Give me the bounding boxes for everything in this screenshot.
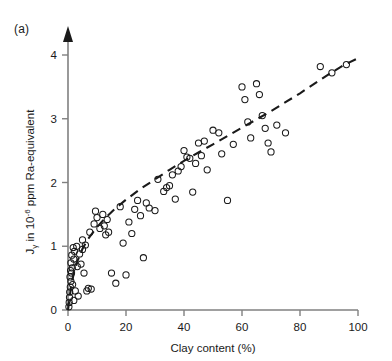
x-axis-title: Clay content (%) bbox=[170, 342, 255, 354]
y-axis-arrow-icon bbox=[63, 26, 73, 42]
data-point-marker bbox=[253, 81, 259, 87]
data-point-marker bbox=[198, 153, 204, 159]
data-point-marker bbox=[137, 213, 143, 219]
data-point-marker bbox=[169, 172, 175, 178]
data-point-marker bbox=[204, 167, 210, 173]
data-point-marker bbox=[108, 270, 114, 276]
data-point-marker bbox=[94, 215, 100, 221]
data-point-marker bbox=[274, 122, 280, 128]
data-point-marker bbox=[123, 272, 129, 278]
data-point-marker bbox=[126, 219, 132, 225]
x-tick-label: 20 bbox=[120, 321, 133, 333]
data-point-marker bbox=[140, 255, 146, 261]
data-point-marker bbox=[100, 211, 106, 217]
data-point-marker bbox=[104, 216, 110, 222]
data-point-marker bbox=[152, 208, 158, 214]
data-point-marker bbox=[146, 205, 152, 211]
x-tick-label: 60 bbox=[236, 321, 249, 333]
axis-labels-group: 02040608010001234Clay content (%)Jγ in 1… bbox=[23, 49, 368, 354]
data-point-marker bbox=[91, 221, 97, 227]
data-point-marker bbox=[113, 280, 119, 286]
data-point-marker bbox=[268, 149, 274, 155]
data-point-marker bbox=[329, 70, 335, 76]
x-tick-label: 100 bbox=[348, 321, 367, 333]
x-tick-label: 80 bbox=[294, 321, 307, 333]
data-point-marker bbox=[120, 240, 126, 246]
data-point-marker bbox=[256, 91, 262, 97]
y-tick-label: 0 bbox=[51, 304, 57, 316]
y-axis-title: Jγ in 10-6 ppm Ra-equivalent bbox=[23, 109, 39, 255]
data-point-marker bbox=[317, 63, 323, 69]
data-point-marker bbox=[172, 196, 178, 202]
data-point-marker bbox=[190, 189, 196, 195]
data-point-marker bbox=[201, 138, 207, 144]
trend-curve bbox=[68, 58, 358, 310]
data-point-marker bbox=[239, 84, 245, 90]
data-point-marker bbox=[282, 130, 288, 136]
y-tick-label: 2 bbox=[51, 177, 57, 189]
data-point-marker bbox=[92, 208, 98, 214]
scatter-plot: 02040608010001234Clay content (%)Jγ in 1… bbox=[0, 0, 392, 361]
data-point-marker bbox=[175, 168, 181, 174]
data-point-marker bbox=[135, 197, 141, 203]
data-point-marker bbox=[230, 141, 236, 147]
data-point-marker bbox=[210, 127, 216, 133]
data-point-marker bbox=[79, 237, 85, 243]
y-tick-label: 4 bbox=[51, 49, 58, 61]
data-point-marker bbox=[193, 160, 199, 166]
trend-curve-path bbox=[68, 58, 358, 310]
data-point-marker bbox=[262, 125, 268, 131]
y-tick-label: 3 bbox=[51, 113, 57, 125]
data-point-marker bbox=[216, 130, 222, 136]
data-point-marker bbox=[178, 164, 184, 170]
data-points-group bbox=[66, 62, 350, 310]
y-tick-label: 1 bbox=[51, 240, 57, 252]
data-point-marker bbox=[224, 197, 230, 203]
data-point-marker bbox=[248, 135, 254, 141]
x-tick-label: 0 bbox=[65, 321, 71, 333]
data-point-marker bbox=[77, 251, 83, 257]
data-point-marker bbox=[129, 230, 135, 236]
data-point-marker bbox=[74, 243, 80, 249]
data-point-marker bbox=[265, 140, 271, 146]
data-point-marker bbox=[181, 148, 187, 154]
figure-panel-a: (a) 02040608010001234Clay content (%)Jγ … bbox=[0, 0, 392, 361]
svg-text:Jγ in 10-6 ppm Ra-equivalent: Jγ in 10-6 ppm Ra-equivalent bbox=[23, 109, 39, 255]
data-point-marker bbox=[219, 151, 225, 157]
data-point-marker bbox=[132, 206, 138, 212]
x-tick-label: 40 bbox=[178, 321, 191, 333]
data-point-marker bbox=[81, 270, 87, 276]
data-point-marker bbox=[242, 97, 248, 103]
data-point-marker bbox=[195, 140, 201, 146]
data-point-marker bbox=[343, 62, 349, 68]
